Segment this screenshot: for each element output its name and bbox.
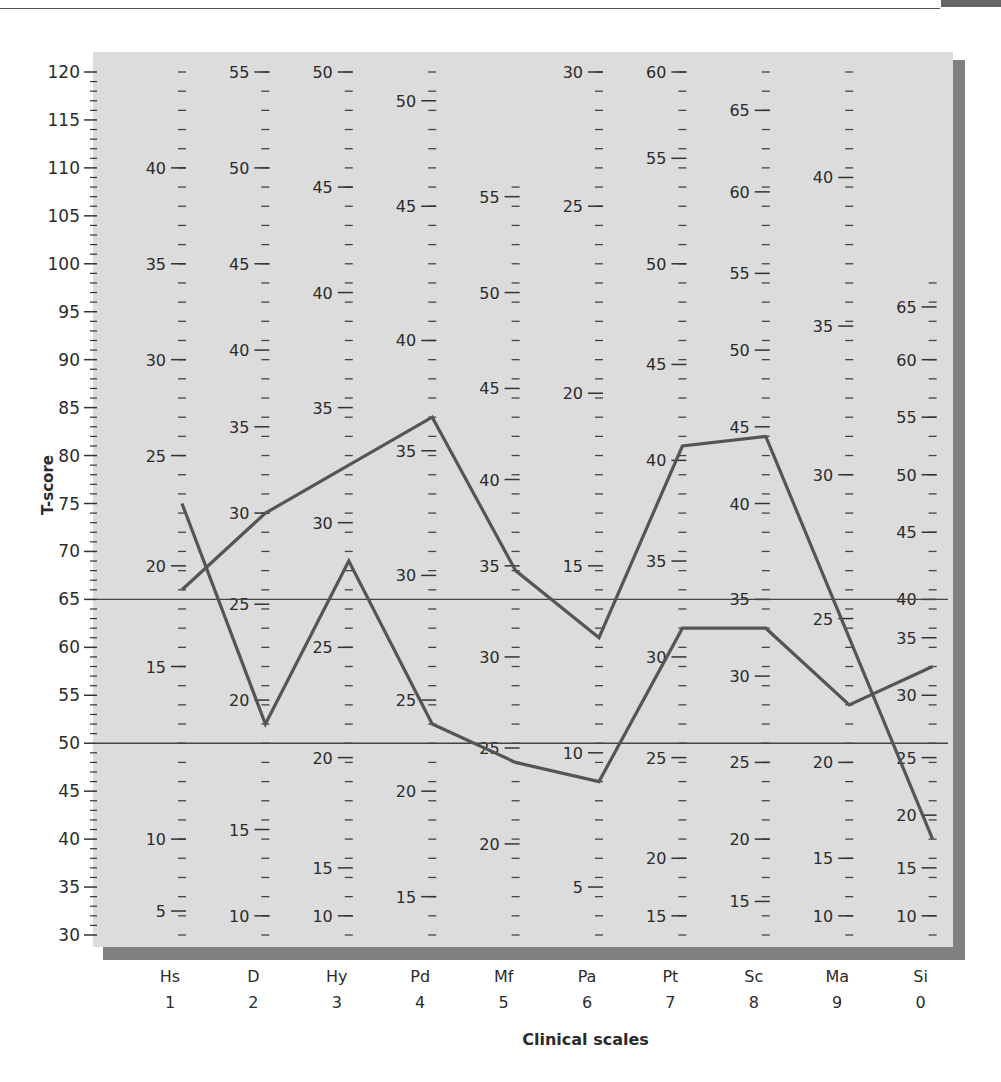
x-scale-abbr: Pa <box>578 967 597 986</box>
y-tick-label: 100 <box>48 254 80 274</box>
raw-score-label: 40 <box>312 284 332 303</box>
raw-score-label: 45 <box>312 178 332 197</box>
raw-score-label: 30 <box>229 504 249 523</box>
raw-score-label: 35 <box>479 557 499 576</box>
raw-score-label: 50 <box>896 466 916 485</box>
raw-score-label: 20 <box>896 806 916 825</box>
raw-score-label: 35 <box>813 317 833 336</box>
raw-score-label: 50 <box>396 92 416 111</box>
raw-score-label: 25 <box>646 749 666 768</box>
raw-score-label: 50 <box>312 63 332 82</box>
raw-score-label: 45 <box>229 255 249 274</box>
raw-score-label: 40 <box>813 168 833 187</box>
raw-score-label: 60 <box>896 351 916 370</box>
x-scale-number: 5 <box>499 993 509 1012</box>
raw-score-label: 25 <box>146 447 166 466</box>
y-tick-label: 35 <box>58 877 80 897</box>
y-tick-label: 110 <box>48 158 80 178</box>
raw-score-label: 20 <box>396 782 416 801</box>
x-axis: Hs1D2Hy3Pd4Mf5Pa6Pt7Sc8Ma9Si0 <box>160 967 928 1012</box>
raw-score-label: 15 <box>146 658 166 677</box>
x-scale-number: 9 <box>832 993 842 1012</box>
y-tick-label: 120 <box>48 62 80 82</box>
raw-score-label: 50 <box>229 159 249 178</box>
raw-score-label: 35 <box>646 552 666 571</box>
raw-score-label: 35 <box>396 442 416 461</box>
y-tick-label: 30 <box>58 925 80 945</box>
x-scale-abbr: Pd <box>410 967 430 986</box>
raw-score-label: 45 <box>396 197 416 216</box>
raw-score-label: 15 <box>896 859 916 878</box>
raw-score-label: 15 <box>312 859 332 878</box>
x-scale-number: 2 <box>248 993 258 1012</box>
raw-score-label: 30 <box>146 351 166 370</box>
x-scale-abbr: Hy <box>326 967 348 986</box>
chart-panel <box>93 52 965 960</box>
raw-score-label: 20 <box>146 557 166 576</box>
raw-score-label: 40 <box>729 495 749 514</box>
raw-score-label: 5 <box>156 902 166 921</box>
raw-score-label: 20 <box>729 830 749 849</box>
raw-score-label: 50 <box>479 284 499 303</box>
y-tick-label: 90 <box>58 350 80 370</box>
raw-score-label: 20 <box>646 849 666 868</box>
raw-score-label: 60 <box>646 63 666 82</box>
raw-score-label: 55 <box>896 408 916 427</box>
y-tick-label: 105 <box>48 206 80 226</box>
raw-score-label: 10 <box>563 744 583 763</box>
x-scale-number: 8 <box>749 993 759 1012</box>
raw-score-label: 40 <box>229 341 249 360</box>
raw-score-label: 50 <box>729 341 749 360</box>
raw-score-label: 55 <box>729 264 749 283</box>
raw-score-label: 30 <box>479 648 499 667</box>
x-scale-abbr: Ma <box>825 967 849 986</box>
raw-score-label: 40 <box>479 471 499 490</box>
raw-score-label: 20 <box>312 749 332 768</box>
raw-score-label: 15 <box>646 907 666 926</box>
y-tick-label: 65 <box>58 589 80 609</box>
raw-score-label: 20 <box>479 835 499 854</box>
raw-score-label: 30 <box>896 686 916 705</box>
raw-score-label: 65 <box>896 298 916 317</box>
y-tick-label: 45 <box>58 781 80 801</box>
raw-score-label: 45 <box>479 379 499 398</box>
raw-score-label: 25 <box>312 638 332 657</box>
y-tick-label: 40 <box>58 829 80 849</box>
raw-score-label: 15 <box>813 849 833 868</box>
raw-score-label: 45 <box>646 355 666 374</box>
y-tick-label: 55 <box>58 685 80 705</box>
x-scale-abbr: D <box>247 967 259 986</box>
raw-score-label: 20 <box>813 753 833 772</box>
raw-score-label: 55 <box>479 188 499 207</box>
y-tick-label: 50 <box>58 733 80 753</box>
raw-score-label: 25 <box>229 595 249 614</box>
raw-score-label: 25 <box>396 691 416 710</box>
raw-score-label: 35 <box>146 255 166 274</box>
raw-score-label: 30 <box>813 466 833 485</box>
raw-score-label: 25 <box>729 753 749 772</box>
x-scale-number: 6 <box>582 993 592 1012</box>
raw-score-label: 60 <box>729 183 749 202</box>
x-scale-number: 4 <box>415 993 425 1012</box>
raw-score-label: 20 <box>229 691 249 710</box>
raw-score-label: 10 <box>813 907 833 926</box>
raw-score-label: 10 <box>229 907 249 926</box>
x-axis-title: Clinical scales <box>0 1030 1001 1049</box>
y-tick-label: 70 <box>58 541 80 561</box>
raw-score-label: 35 <box>896 629 916 648</box>
x-scale-abbr: Si <box>913 967 928 986</box>
x-scale-abbr: Hs <box>160 967 180 986</box>
raw-score-label: 40 <box>146 159 166 178</box>
raw-score-label: 15 <box>229 821 249 840</box>
x-scale-abbr: Pt <box>662 967 678 986</box>
mmpi-profile-chart: 3035404550556065707580859095100105110115… <box>0 0 1001 1082</box>
raw-score-label: 15 <box>729 892 749 911</box>
raw-score-label: 25 <box>813 610 833 629</box>
y-tick-label: 85 <box>58 398 80 418</box>
x-scale-number: 0 <box>916 993 926 1012</box>
y-tick-label: 60 <box>58 637 80 657</box>
raw-score-label: 30 <box>396 566 416 585</box>
raw-score-label: 40 <box>396 331 416 350</box>
raw-score-label: 65 <box>729 101 749 120</box>
x-scale-number: 3 <box>332 993 342 1012</box>
